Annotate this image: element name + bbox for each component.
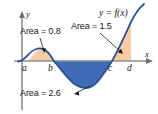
x-tick-label-a: a [22,64,27,74]
x-axis-label: x [145,50,149,59]
leader-line-area-1-5 [100,33,121,52]
annotation-area-2-6: Area = 2.6 [20,89,61,98]
x-tick-label-d: d [127,64,132,74]
x-tick-label-b: b [48,64,53,74]
y-axis-arrow-icon [19,11,25,18]
leader-arrowhead-area-2-6 [74,91,79,95]
y-axis-label: y [26,10,30,19]
area-under-curve-figure: Area = 0.8 Area = 1.5 Area = 2.6 a b c d… [0,0,158,114]
x-tick-label-c: c [108,64,112,74]
curve-equation-label: y = f(x) [99,9,128,19]
annotation-area-0-8: Area = 0.8 [20,27,61,36]
annotation-area-1-5: Area = 1.5 [71,22,112,31]
